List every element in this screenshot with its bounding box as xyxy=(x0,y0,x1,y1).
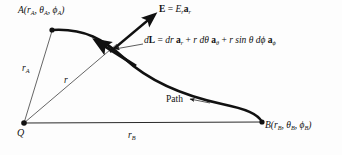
label-origin-q: Q xyxy=(17,128,24,138)
e-field-vector xyxy=(110,16,153,52)
point-q-marker xyxy=(21,120,27,126)
physics-diagram-figure: A(rA, θA, ϕA) B(rB, θB, ϕB) Q rA r rB Pa… xyxy=(0,0,342,155)
radial-line-r-a xyxy=(24,31,52,123)
label-dl-equation: dL = dr ar + r dθ aθ + r sin θ dϕ aϕ xyxy=(144,36,276,46)
point-a-marker xyxy=(49,27,54,32)
diagram-canvas xyxy=(0,0,342,155)
label-e-field-equation: E = Erar xyxy=(159,5,191,15)
label-radius-b: rB xyxy=(128,131,136,141)
label-radius-a: rA xyxy=(22,64,30,74)
baseline-q-to-b xyxy=(24,122,262,123)
radial-line-r xyxy=(24,44,117,123)
point-b-marker xyxy=(259,119,264,124)
label-point-b: B(rB, θB, ϕB) xyxy=(265,121,311,131)
label-radius-r: r xyxy=(64,76,68,86)
label-point-a: A(rA, θA, ϕA) xyxy=(18,6,64,16)
label-path: Path xyxy=(166,95,183,105)
